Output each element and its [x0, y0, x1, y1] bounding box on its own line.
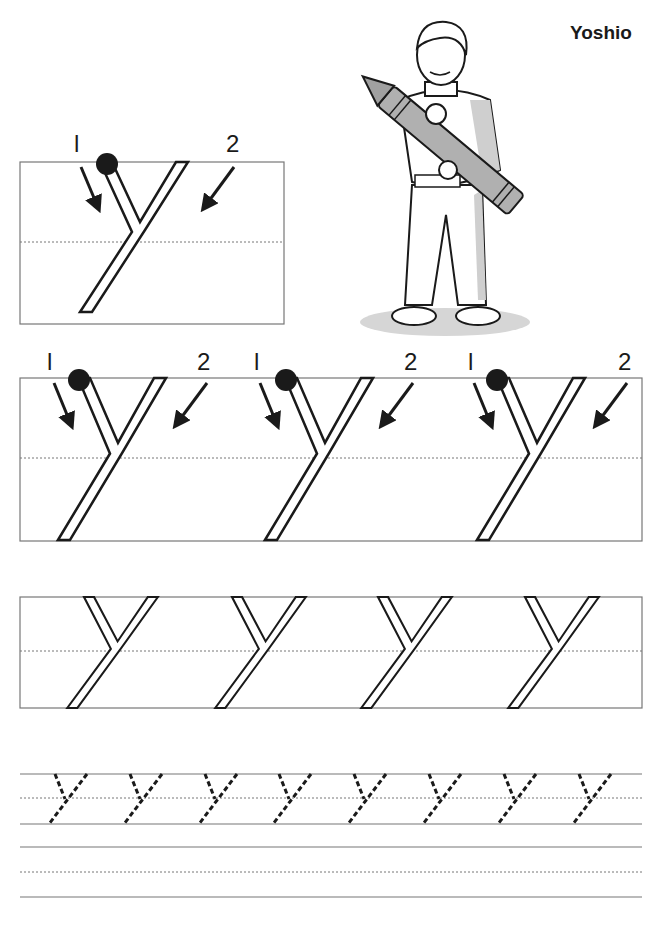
stroke-label-1: l [74, 130, 79, 157]
stroke-label-2: 2 [197, 348, 210, 375]
stroke-label-2: 2 [618, 348, 631, 375]
worksheet-canvas: l 2 [0, 0, 665, 925]
boy-with-crayon-illustration [354, 22, 530, 336]
stroke-order-row: l 2 l 2 l 2 [20, 348, 642, 541]
start-dot-icon [275, 369, 297, 391]
arrow-down-left-icon [178, 383, 207, 422]
stroke-label-1: l [254, 348, 259, 375]
outlined-tracing-row [20, 597, 642, 708]
letter-y-outline [80, 162, 188, 312]
start-dot-icon [68, 369, 90, 391]
arrow-down-left-icon [598, 383, 627, 422]
stroke-label-2: 2 [404, 348, 417, 375]
arrow-down-right-icon [260, 383, 276, 422]
stroke-label-1: l [468, 348, 473, 375]
model-letter-box: l 2 [20, 130, 284, 324]
dashed-tracing-row [20, 774, 642, 824]
arrow-down-right-icon [81, 167, 97, 205]
stroke-label-1: l [47, 348, 52, 375]
stroke-label-2: 2 [226, 130, 239, 157]
start-dot-icon [486, 369, 508, 391]
arrow-down-left-icon [384, 383, 413, 422]
blank-practice-row[interactable] [20, 847, 642, 897]
arrow-down-left-icon [206, 167, 234, 205]
arrow-down-right-icon [474, 383, 490, 422]
start-dot-icon [96, 153, 118, 175]
arrow-down-right-icon [54, 383, 70, 422]
